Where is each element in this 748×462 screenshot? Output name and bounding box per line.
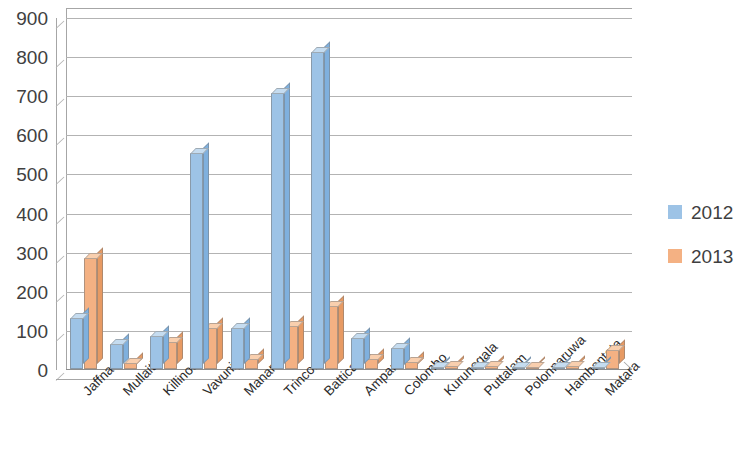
bar[interactable] <box>526 367 539 369</box>
bar-group <box>307 17 348 369</box>
bar-group <box>548 17 589 369</box>
legend-item[interactable]: 2012 <box>668 190 748 234</box>
bar-side <box>284 82 290 364</box>
y-axis-tick-label: 400 <box>0 204 48 223</box>
bars-layer <box>56 8 632 380</box>
bar-group <box>588 17 629 369</box>
legend-label-2012: 2012 <box>691 203 733 222</box>
bar-group <box>427 17 468 369</box>
bar-side <box>177 331 183 364</box>
bar-side <box>203 142 209 364</box>
legend-swatch-2012 <box>668 205 682 219</box>
bar-side <box>123 333 129 364</box>
y-axis-tick-label: 700 <box>0 87 48 106</box>
bar[interactable] <box>391 348 404 370</box>
y-axis-tick-label: 600 <box>0 126 48 145</box>
bar[interactable] <box>110 344 123 369</box>
plot-area <box>56 8 632 380</box>
bar-face <box>124 363 137 369</box>
bar[interactable] <box>445 366 458 369</box>
y-axis-tick-label: 500 <box>0 165 48 184</box>
y-axis-tick-label: 800 <box>0 48 48 67</box>
bar[interactable] <box>405 362 418 369</box>
bar-face <box>391 348 404 370</box>
bar-side <box>97 248 103 364</box>
bar-group <box>186 17 227 369</box>
bar[interactable] <box>70 318 83 369</box>
bar-group <box>467 17 508 369</box>
bar-group <box>227 17 268 369</box>
bar-face <box>190 153 203 369</box>
bar[interactable] <box>311 52 324 369</box>
bar-face <box>110 344 123 369</box>
bar-face <box>150 336 163 369</box>
bar-face <box>405 362 418 369</box>
bar[interactable] <box>512 367 525 369</box>
bar-face <box>271 93 284 369</box>
bar[interactable] <box>592 367 605 369</box>
bar[interactable] <box>485 366 498 369</box>
y-axis-tick-label: 300 <box>0 243 48 262</box>
legend: 2012 2013 <box>668 190 748 278</box>
bar[interactable] <box>190 153 203 369</box>
bar-group <box>508 17 549 369</box>
bar-side <box>619 339 625 364</box>
bar-chart: 0100200300400500600700800900 JaffnaMulla… <box>0 0 748 462</box>
x-axis: JaffnaMullaitivuKillinochchiVavuniyaMana… <box>56 384 676 462</box>
y-axis-tick-label: 900 <box>0 9 48 28</box>
bar-group <box>267 17 308 369</box>
y-axis-tick-label: 100 <box>0 321 48 340</box>
bar[interactable] <box>231 328 244 369</box>
bar[interactable] <box>471 367 484 369</box>
bar[interactable] <box>271 93 284 369</box>
bar-group <box>106 17 147 369</box>
bar-face <box>351 338 364 369</box>
bar[interactable] <box>431 367 444 369</box>
bar-group <box>387 17 428 369</box>
legend-item[interactable]: 2013 <box>668 234 748 278</box>
legend-label-2013: 2013 <box>691 247 733 266</box>
bar[interactable] <box>351 338 364 369</box>
bar[interactable] <box>124 363 137 369</box>
y-axis: 0100200300400500600700800900 <box>0 0 48 392</box>
bar-group <box>146 17 187 369</box>
bar-face <box>70 318 83 369</box>
bar-face <box>231 328 244 369</box>
bar[interactable] <box>552 367 565 369</box>
bar-group <box>66 17 107 369</box>
bar-side <box>324 41 330 364</box>
y-axis-tick-label: 0 <box>0 361 48 380</box>
bar[interactable] <box>566 366 579 369</box>
bar-group <box>347 17 388 369</box>
legend-swatch-2013 <box>668 249 682 263</box>
y-axis-tick-label: 200 <box>0 282 48 301</box>
bar[interactable] <box>150 336 163 369</box>
bar-face <box>311 52 324 369</box>
